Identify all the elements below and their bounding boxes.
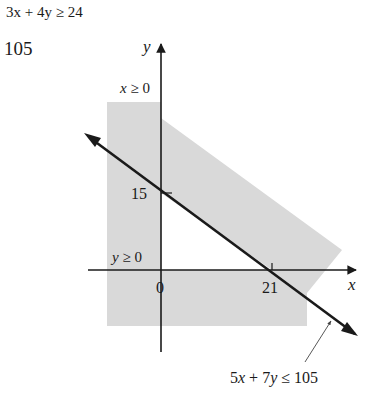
inequality-graph: y x 0 15 21 x ≥ 0 y ≥ 0 5x + 7y ≤ 105 <box>0 0 375 399</box>
boundary-line-label: 5x + 7y ≤ 105 <box>230 369 318 387</box>
constraint-y-label: y ≥ 0 <box>110 249 142 265</box>
origin-label: 0 <box>156 279 164 296</box>
y-intercept-label: 15 <box>131 185 147 202</box>
constraint-x-label: x ≥ 0 <box>119 80 150 96</box>
x-intercept-label: 21 <box>262 279 278 296</box>
label-leader <box>305 321 331 362</box>
shaded-excluded-region <box>107 102 342 326</box>
y-axis-label: y <box>141 37 151 56</box>
x-axis-label: x <box>347 275 356 294</box>
